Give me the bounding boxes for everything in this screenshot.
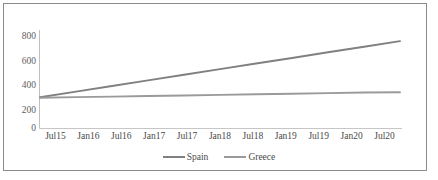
x-tick-6: Jul18 <box>236 131 269 145</box>
x-tick-4: Jul17 <box>171 131 204 145</box>
legend-item-spain[interactable]: Spain <box>163 152 209 162</box>
x-tick-9: Jan20 <box>335 131 368 145</box>
y-tick-600: 600 <box>6 56 36 66</box>
series-line-spain <box>40 41 400 97</box>
y-tick-0: 0 <box>6 123 36 133</box>
y-tick-800: 800 <box>6 31 36 41</box>
legend-swatch-spain-icon <box>163 156 185 158</box>
legend-label-greece: Greece <box>248 152 275 162</box>
legend-label-spain: Spain <box>187 152 209 162</box>
series-line-greece <box>40 92 400 97</box>
line-chart: 800 600 400 200 0 Jul15 Jan16 Jul16 Jan1… <box>0 0 438 180</box>
x-axis-tick-labels: Jul15 Jan16 Jul16 Jan17 Jul17 Jan18 Jul1… <box>40 131 402 145</box>
x-tick-5: Jan18 <box>204 131 237 145</box>
x-tick-1: Jan16 <box>72 131 105 145</box>
x-tick-10: Jul20 <box>368 131 401 145</box>
y-tick-200: 200 <box>6 105 36 115</box>
legend-item-greece[interactable]: Greece <box>224 152 275 162</box>
x-tick-2: Jul16 <box>105 131 138 145</box>
x-tick-7: Jan19 <box>269 131 302 145</box>
y-tick-400: 400 <box>6 80 36 90</box>
x-tick-0: Jul15 <box>39 131 72 145</box>
x-tick-3: Jan17 <box>138 131 171 145</box>
x-tick-8: Jul19 <box>302 131 335 145</box>
chart-legend: Spain Greece <box>0 149 438 165</box>
legend-swatch-greece-icon <box>224 156 246 158</box>
